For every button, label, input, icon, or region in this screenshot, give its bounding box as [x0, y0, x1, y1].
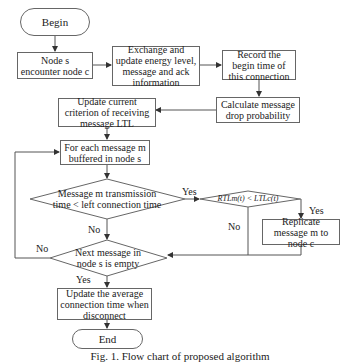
- calculate-drop-probability-box: Calculate message drop probability: [216, 97, 300, 123]
- edge-label-empty-yes: Yes: [76, 274, 91, 285]
- encounter-node-box: Node s encounter node c: [17, 52, 93, 79]
- for-each-message-box: For each message m buffered in node s: [60, 140, 150, 165]
- edge-label-empty-no: No: [36, 243, 48, 254]
- update-ltl-box: Update current criterion of receiving me…: [58, 98, 156, 127]
- replicate-message-box: Replicate message m to node c: [262, 219, 340, 245]
- decision-time-text: Message m transmission time < left conne…: [52, 188, 162, 210]
- edge-label-time-yes: Yes: [182, 186, 197, 197]
- edge-label-rtl-no: No: [228, 221, 240, 232]
- edge-label-rtl-yes: Yes: [309, 205, 324, 216]
- begin-terminal: Begin: [20, 8, 90, 36]
- decision-empty-text: Next message in node s is empty: [70, 247, 146, 269]
- record-begin-time-box: Record the begin time of this connection: [222, 50, 296, 80]
- exchange-info-box: Exchange and update energy level, messag…: [112, 46, 200, 86]
- encounter-line-2: encounter node c: [21, 66, 89, 77]
- figure-caption: Fig. 1. Flow chart of proposed algorithm: [0, 350, 360, 362]
- encounter-line-1: Node s: [41, 55, 69, 66]
- update-average-time-box: Update the average connection time when …: [57, 288, 152, 320]
- end-terminal: End: [72, 329, 143, 349]
- edge-label-time-no: No: [88, 224, 100, 235]
- decision-rtl-text: RTLm(t) < LTLc(t): [212, 194, 284, 204]
